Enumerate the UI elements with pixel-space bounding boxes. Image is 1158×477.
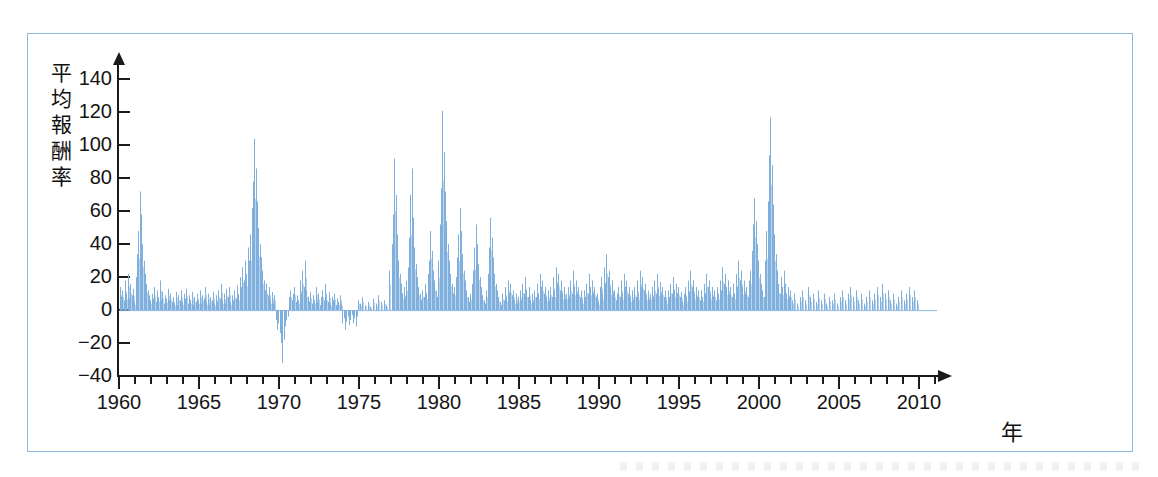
scan-artifact [620, 462, 1140, 471]
figure-page: 平 均 報 酬 率 −40−20020406080100120140 19601… [0, 0, 1158, 477]
x-tick-minor-1988 [566, 377, 568, 384]
x-tick-major-1960 [118, 377, 120, 389]
x-tick-minor-1964 [182, 377, 184, 384]
y-axis-title: 平 均 報 酬 率 [46, 60, 76, 190]
x-tick-minor-1976 [374, 377, 376, 384]
x-tick-minor-1963 [166, 377, 168, 384]
x-tick-minor-2011 [934, 377, 936, 384]
x-tick-major-1995 [678, 377, 680, 389]
x-tick-major-2005 [838, 377, 840, 389]
x-tick-minor-1997 [710, 377, 712, 384]
x-tick-minor-1993 [646, 377, 648, 384]
x-tick-major-1990 [598, 377, 600, 389]
x-tick-minor-2006 [854, 377, 856, 384]
bar-canvas [119, 63, 943, 376]
x-tick-major-1975 [358, 377, 360, 389]
x-tick-minor-1994 [662, 377, 664, 384]
x-tick-minor-1999 [742, 377, 744, 384]
y-axis-title-char-1: 平 [46, 60, 76, 86]
x-tick-minor-1977 [390, 377, 392, 384]
x-tick-minor-1979 [422, 377, 424, 384]
x-tick-minor-1996 [694, 377, 696, 384]
x-tick-minor-1971 [294, 377, 296, 384]
x-tick-label-1990: 1990 [577, 391, 622, 413]
x-tick-label-1960: 1960 [97, 391, 142, 413]
x-tick-minor-1992 [630, 377, 632, 384]
y-axis-title-char-5: 率 [46, 164, 76, 190]
x-tick-minor-1972 [310, 377, 312, 384]
x-tick-minor-1981 [454, 377, 456, 384]
y-axis-title-char-2: 均 [46, 86, 76, 112]
x-tick-label-2000: 2000 [737, 391, 782, 413]
x-tick-minor-2001 [774, 377, 776, 384]
x-tick-major-1965 [198, 377, 200, 389]
x-tick-minor-1982 [470, 377, 472, 384]
x-tick-minor-1989 [582, 377, 584, 384]
y-axis-title-char-4: 酬 [46, 138, 76, 164]
x-tick-minor-1983 [486, 377, 488, 384]
x-tick-major-2000 [758, 377, 760, 389]
x-tick-label-2005: 2005 [817, 391, 862, 413]
x-tick-major-1970 [278, 377, 280, 389]
x-tick-minor-1969 [262, 377, 264, 384]
x-tick-label-1980: 1980 [417, 391, 462, 413]
x-tick-minor-2007 [870, 377, 872, 384]
figure-frame: 平 均 報 酬 率 −40−20020406080100120140 19601… [27, 33, 1133, 452]
x-tick-label-1965: 1965 [177, 391, 222, 413]
x-tick-minor-1998 [726, 377, 728, 384]
x-tick-minor-1967 [230, 377, 232, 384]
x-tick-minor-2004 [822, 377, 824, 384]
x-tick-label-1985: 1985 [497, 391, 542, 413]
x-tick-minor-2009 [902, 377, 904, 384]
x-tick-minor-2003 [806, 377, 808, 384]
x-tick-minor-1973 [326, 377, 328, 384]
x-tick-label-2010: 2010 [897, 391, 942, 413]
x-tick-minor-1984 [502, 377, 504, 384]
x-tick-minor-1978 [406, 377, 408, 384]
x-tick-label-1975: 1975 [337, 391, 382, 413]
x-tick-minor-1961 [134, 377, 136, 384]
x-tick-label-1970: 1970 [257, 391, 302, 413]
bar-series [119, 63, 943, 376]
x-tick-minor-2002 [790, 377, 792, 384]
x-tick-minor-1987 [550, 377, 552, 384]
y-axis-title-char-3: 報 [46, 112, 76, 138]
chart-plot-area: 平 均 報 酬 率 −40−20020406080100120140 19601… [28, 34, 1134, 453]
x-tick-minor-1991 [614, 377, 616, 384]
x-tick-minor-1986 [534, 377, 536, 384]
x-tick-minor-1966 [214, 377, 216, 384]
x-tick-minor-2008 [886, 377, 888, 384]
x-tick-minor-1974 [342, 377, 344, 384]
x-tick-label-1995: 1995 [657, 391, 702, 413]
x-tick-minor-1962 [150, 377, 152, 384]
x-tick-major-1980 [438, 377, 440, 389]
x-axis-title: 年 [1001, 414, 1023, 446]
x-tick-major-2010 [918, 377, 920, 389]
x-tick-minor-1968 [246, 377, 248, 384]
x-tick-major-1985 [518, 377, 520, 389]
